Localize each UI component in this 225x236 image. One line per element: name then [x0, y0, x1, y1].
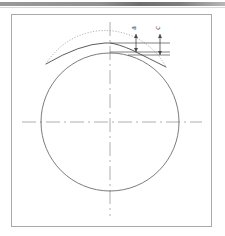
dimension-label-c: c	[154, 26, 162, 30]
page-root: a c	[0, 0, 225, 236]
technical-drawing-figure	[0, 0, 225, 236]
dotted-reference-arc	[46, 31, 166, 67]
dimension-label-a: a	[130, 26, 138, 30]
dimension-arrow-c	[158, 34, 162, 55]
